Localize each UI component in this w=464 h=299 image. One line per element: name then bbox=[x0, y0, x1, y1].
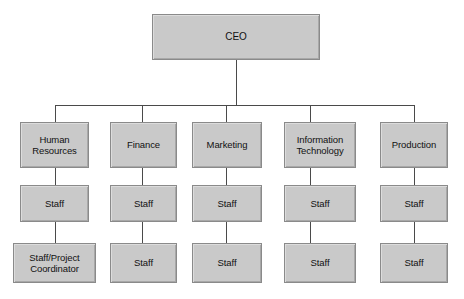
org-node-production-level-0-label: Production bbox=[390, 139, 438, 151]
org-node-production-level-2[interactable]: Staff bbox=[380, 243, 448, 283]
org-node-marketing-level-0-label: Marketing bbox=[205, 139, 250, 151]
org-node-marketing-level-2-label: Staff bbox=[216, 257, 239, 269]
org-node-marketing-level-0[interactable]: Marketing bbox=[192, 122, 262, 168]
org-node-finance-level-2[interactable]: Staff bbox=[110, 243, 177, 283]
connector-information-technology-level-2 bbox=[310, 222, 311, 243]
org-node-information-technology-level-1[interactable]: Staff bbox=[284, 185, 356, 222]
connector-horizontal-bus bbox=[55, 105, 414, 106]
connector-production-level-1 bbox=[414, 168, 415, 185]
org-chart-canvas: CEO Human ResourcesStaffStaff/Project Co… bbox=[0, 0, 464, 299]
connector-bus-to-marketing bbox=[226, 105, 227, 122]
org-node-finance-level-2-label: Staff bbox=[132, 257, 155, 269]
org-node-human-resources-level-0-label: Human Resources bbox=[30, 134, 79, 157]
org-node-marketing-level-2[interactable]: Staff bbox=[192, 243, 262, 283]
top-margin-artifact bbox=[0, 0, 464, 6]
org-node-production-level-1[interactable]: Staff bbox=[380, 185, 448, 222]
org-node-finance-level-1[interactable]: Staff bbox=[110, 185, 177, 222]
org-node-human-resources-level-0[interactable]: Human Resources bbox=[20, 122, 89, 168]
connector-bus-to-production bbox=[414, 105, 415, 122]
org-node-information-technology-level-1-label: Staff bbox=[309, 198, 332, 210]
org-node-information-technology-level-2[interactable]: Staff bbox=[284, 243, 356, 283]
org-node-finance-level-0[interactable]: Finance bbox=[110, 122, 177, 168]
org-node-human-resources-level-2[interactable]: Staff/Project Coordinator bbox=[13, 243, 96, 283]
connector-marketing-level-2 bbox=[226, 222, 227, 243]
org-node-finance-level-0-label: Finance bbox=[125, 139, 162, 151]
org-node-ceo-label: CEO bbox=[223, 31, 248, 43]
connector-human-resources-level-1 bbox=[55, 168, 56, 185]
org-node-ceo[interactable]: CEO bbox=[152, 14, 320, 60]
connector-bus-to-finance bbox=[142, 105, 143, 122]
connector-bus-to-human-resources bbox=[55, 105, 56, 122]
org-node-information-technology-level-0-label: Information Technology bbox=[294, 134, 345, 157]
org-node-human-resources-level-2-label: Staff/Project Coordinator bbox=[27, 252, 81, 275]
org-node-human-resources-level-1[interactable]: Staff bbox=[20, 185, 89, 222]
org-node-production-level-0[interactable]: Production bbox=[380, 122, 448, 168]
connector-finance-level-1 bbox=[142, 168, 143, 185]
org-node-marketing-level-1-label: Staff bbox=[216, 198, 239, 210]
connector-finance-level-2 bbox=[142, 222, 143, 243]
connector-human-resources-level-2 bbox=[55, 222, 56, 243]
org-node-finance-level-1-label: Staff bbox=[132, 198, 155, 210]
org-node-information-technology-level-0[interactable]: Information Technology bbox=[284, 122, 356, 168]
org-node-marketing-level-1[interactable]: Staff bbox=[192, 185, 262, 222]
connector-marketing-level-1 bbox=[226, 168, 227, 185]
org-node-production-level-1-label: Staff bbox=[403, 198, 426, 210]
connector-information-technology-level-1 bbox=[310, 168, 311, 185]
connector-bus-to-information-technology bbox=[310, 105, 311, 122]
connector-ceo-stem bbox=[236, 60, 237, 105]
org-node-production-level-2-label: Staff bbox=[403, 257, 426, 269]
org-node-human-resources-level-1-label: Staff bbox=[43, 198, 66, 210]
connector-production-level-2 bbox=[414, 222, 415, 243]
org-node-information-technology-level-2-label: Staff bbox=[309, 257, 332, 269]
